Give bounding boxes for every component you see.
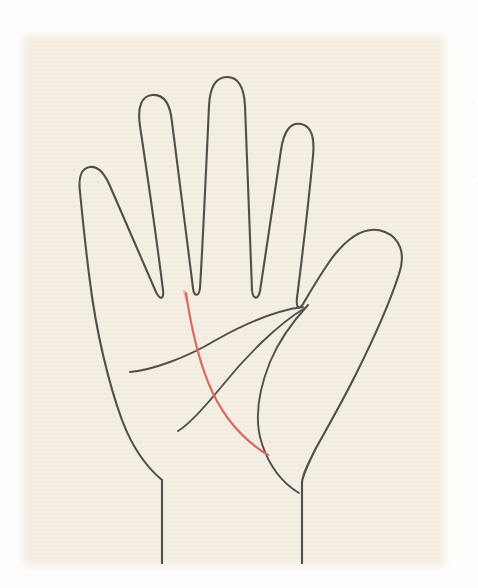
palm-diagram-figure: · - · » · - · « · - · - — [0, 0, 478, 588]
margin-fleck: » — [473, 100, 475, 105]
margin-fleck: « — [473, 174, 475, 179]
margin-fleck: - — [474, 249, 475, 254]
paper-panel — [28, 40, 440, 561]
margin-fleck: · — [474, 230, 475, 235]
margin-fleck: - — [474, 63, 475, 68]
margin-fleck: · — [474, 44, 475, 49]
margin-fleck: · — [474, 119, 475, 124]
margin-fleck: · — [474, 156, 475, 161]
margin-fleck: - — [474, 212, 475, 217]
margin-fleck: - — [474, 137, 475, 142]
scan-margin-artifacts: · - · » · - · « · - · - — [453, 44, 475, 254]
margin-fleck: · — [474, 81, 475, 86]
margin-fleck: · — [474, 193, 475, 198]
